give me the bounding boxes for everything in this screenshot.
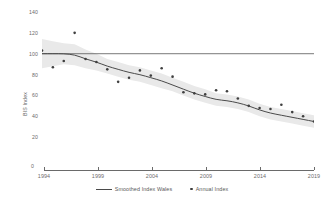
data-point [150,74,153,77]
data-point [226,90,229,93]
data-point [84,58,87,61]
x-tick-mark-2019 [314,167,315,170]
legend-item-smoothed: Smoothed Index Wales [96,186,173,192]
x-tick-1999: 1999 [92,173,104,179]
data-point [171,75,174,78]
legend-line-icon [96,189,112,190]
x-axis-line [44,170,314,171]
legend-item-annual: Annual Index [190,186,228,192]
data-point [62,60,65,63]
x-tick-mark-1994 [44,167,45,170]
x-tick-mark-1999 [98,167,99,170]
data-point [247,105,250,108]
data-point [193,92,196,95]
data-point [302,115,305,118]
data-point [182,91,185,94]
y-tick-100: 100 [29,51,38,57]
data-point [280,104,283,107]
data-point [215,89,218,92]
x-tick-mark-2004 [152,167,153,170]
legend-dot-icon [190,188,192,190]
legend-label-annual: Annual Index [196,186,229,192]
y-tick-20: 20 [32,134,38,140]
y-tick-140: 140 [29,9,38,15]
confidence-band [42,39,314,128]
data-point [291,111,294,114]
y-tick-120: 120 [29,30,38,36]
data-point [52,66,55,69]
data-point [128,76,131,79]
bis-index-chart: BIS Index 14012010080604020 0 1994199920… [0,0,324,208]
y-tick-80: 80 [32,72,38,78]
legend-label-smoothed: Smoothed Index Wales [115,186,173,192]
data-point [237,97,240,100]
data-point [204,93,207,96]
y-axis-title: BIS Index [22,92,28,116]
y-tick-60: 60 [32,92,38,98]
plot-area [42,12,314,158]
plot-svg [42,12,314,158]
x-tick-2009: 2009 [200,173,212,179]
x-tick-2004: 2004 [146,173,158,179]
x-tick-2014: 2014 [254,173,266,179]
chart-legend: Smoothed Index Wales Annual Index [0,186,324,192]
data-point [269,108,272,111]
data-point [95,61,98,64]
data-point [106,68,109,71]
data-point [139,69,142,72]
x-tick-mark-2014 [260,167,261,170]
y-tick-40: 40 [32,113,38,119]
x-tick-1994: 1994 [38,173,50,179]
x-tick-mark-2009 [206,167,207,170]
data-point [117,81,120,84]
data-point [160,67,163,70]
data-point [73,32,76,35]
x-tick-2019: 2019 [308,173,320,179]
y-axis-zero-label: 0 [31,163,34,169]
data-point [258,107,261,110]
